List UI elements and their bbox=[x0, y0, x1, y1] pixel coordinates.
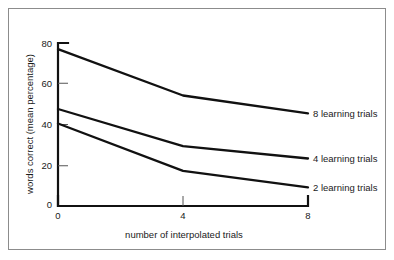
line-chart: 80 60 40 20 0 0 4 8 8 learning trials 4 … bbox=[0, 0, 394, 260]
x-tick-label-0: 0 bbox=[55, 210, 60, 221]
y-tick-label-20: 20 bbox=[41, 160, 52, 171]
series-label-4-learning-trials: 4 learning trials bbox=[313, 153, 378, 164]
series-label-8-learning-trials: 8 learning trials bbox=[313, 108, 378, 119]
y-tick-label-40: 40 bbox=[41, 119, 52, 130]
series-label-2-learning-trials: 2 learning trials bbox=[313, 182, 378, 193]
x-tick-label-8: 8 bbox=[305, 210, 310, 221]
y-tick-label-0: 0 bbox=[47, 199, 52, 210]
series-line-8-learning-trials bbox=[58, 49, 308, 113]
series-line-4-learning-trials bbox=[58, 109, 308, 159]
y-tick-label-80: 80 bbox=[41, 38, 52, 49]
y-tick-label-60: 60 bbox=[41, 78, 52, 89]
figure-container: 80 60 40 20 0 0 4 8 8 learning trials 4 … bbox=[0, 0, 394, 260]
x-axis-title: number of interpolated trials bbox=[125, 229, 243, 240]
x-tick-label-4: 4 bbox=[180, 210, 185, 221]
y-axis-title: words correct (mean percentage) bbox=[24, 54, 35, 195]
